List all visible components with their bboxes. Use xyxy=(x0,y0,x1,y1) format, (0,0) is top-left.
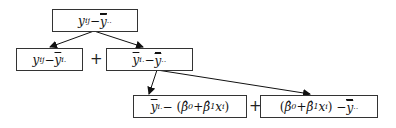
grand-mean: y xyxy=(346,99,353,115)
minus: − xyxy=(144,53,154,67)
close-paren-minus: ) − xyxy=(328,100,347,114)
group-mean: y xyxy=(151,100,158,114)
node-within-deviation: yij − yi. xyxy=(16,48,83,71)
minus: − xyxy=(44,53,54,67)
arrow-between-to-lackfit xyxy=(149,70,157,94)
beta-hat: β̂ xyxy=(181,100,188,114)
beta-hat: β̂ xyxy=(306,100,313,114)
close-paren: ) xyxy=(225,100,230,114)
sub: i. xyxy=(61,55,66,64)
plus: + xyxy=(296,100,306,114)
grand-mean: y xyxy=(155,52,162,68)
minus: − xyxy=(90,14,100,28)
sub: .. xyxy=(107,16,112,25)
sub: .. xyxy=(353,102,358,111)
arrow-between-to-regression xyxy=(157,70,310,94)
sub: .. xyxy=(161,55,166,64)
group-mean: y xyxy=(133,53,140,67)
arrow-total-to-within xyxy=(50,31,94,47)
node-regression: (β̂0 + β̂1xi) − y.. xyxy=(260,95,378,118)
minus-open-paren: − ( xyxy=(163,100,182,114)
node-lack-of-fit: yi. − (β̂0 + β̂1xi) xyxy=(133,95,247,118)
node-total-deviation: yij − y.. xyxy=(52,9,138,32)
group-mean: y xyxy=(55,53,62,67)
var-x: x xyxy=(215,100,222,114)
node-between-deviation: yi. − y.. xyxy=(106,48,193,71)
arrow-total-to-between xyxy=(94,31,143,47)
var-y: y xyxy=(33,53,40,67)
var-x: x xyxy=(319,100,326,114)
beta-hat: β̂ xyxy=(284,100,291,114)
plus-operator-1: + xyxy=(90,50,103,68)
beta-hat: β̂ xyxy=(203,100,210,114)
plus: + xyxy=(193,100,203,114)
grand-mean: y xyxy=(100,13,107,29)
var-y: y xyxy=(78,14,85,28)
